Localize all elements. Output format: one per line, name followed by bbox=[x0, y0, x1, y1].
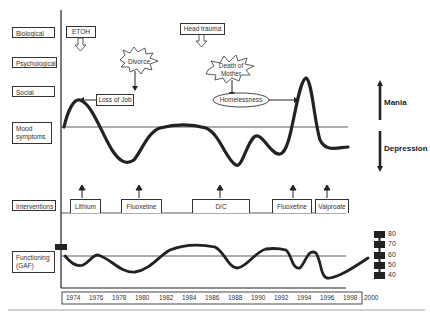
row-label-functioning: Functioning (GAF) bbox=[12, 251, 55, 273]
year-label: 1994 bbox=[297, 292, 311, 304]
event-death-of-mother: Death of Mother bbox=[218, 62, 244, 78]
event-etoh: ETOH bbox=[66, 26, 96, 38]
etoh-arrow-icon bbox=[75, 38, 86, 51]
intervention-fluoxetine-1: Fluoxetine bbox=[121, 199, 162, 213]
row-label-interventions: Interventions bbox=[12, 200, 56, 211]
functioning-curve bbox=[65, 245, 368, 278]
year-label: 1986 bbox=[205, 292, 219, 304]
event-divorce: Divorce bbox=[124, 58, 154, 66]
year-axis: 1974 1976 1978 1980 1982 1984 1986 1988 … bbox=[62, 292, 362, 304]
event-homelessness: Homelessness bbox=[215, 96, 267, 104]
intervention-dc: D/C bbox=[192, 199, 250, 213]
event-loss-of-job: Loss of Job bbox=[96, 94, 134, 106]
year-label: 1996 bbox=[320, 292, 334, 304]
year-label: 1984 bbox=[182, 292, 196, 304]
head-trauma-arrow-icon bbox=[196, 34, 207, 47]
event-head-trauma: Head trauma bbox=[180, 23, 225, 35]
pole-depression: Depression bbox=[384, 144, 428, 153]
intervention-valproate: Valproate bbox=[315, 199, 349, 213]
year-label: 1998 bbox=[343, 292, 357, 304]
intervention-fluoxetine-2: Fluoxetine bbox=[272, 199, 312, 213]
gaf-tick-80: 80 bbox=[388, 230, 396, 237]
year-label: 2000 bbox=[364, 292, 378, 304]
gaf-tick-70: 70 bbox=[388, 240, 396, 247]
pole-mania: Mania bbox=[384, 98, 407, 107]
year-label: 1992 bbox=[274, 292, 288, 304]
year-label: 1978 bbox=[112, 292, 126, 304]
year-label: 1982 bbox=[159, 292, 173, 304]
row-label-social: Social bbox=[12, 86, 55, 97]
gaf-tick-40: 40 bbox=[388, 271, 396, 278]
row-label-biological: Biological bbox=[12, 27, 55, 38]
intervention-lithium: Lithium bbox=[70, 199, 101, 213]
row-label-mood: Mood symptoms bbox=[12, 122, 52, 144]
row-label-psychological: Psychological bbox=[12, 57, 57, 68]
year-label: 1980 bbox=[135, 292, 149, 304]
year-label: 1976 bbox=[89, 292, 103, 304]
gaf-tick-50: 50 bbox=[388, 261, 396, 268]
year-label: 1988 bbox=[228, 292, 242, 304]
year-label: 1990 bbox=[251, 292, 265, 304]
year-label: 1974 bbox=[66, 292, 80, 304]
life-chart-graphics bbox=[0, 0, 430, 313]
mood-curve bbox=[64, 78, 348, 165]
gaf-tick-60: 60 bbox=[388, 251, 396, 258]
